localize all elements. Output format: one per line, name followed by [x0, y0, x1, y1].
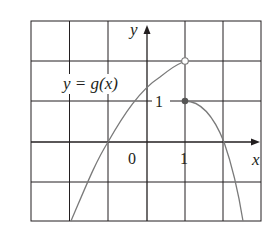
x-axis-arrow-icon [251, 139, 260, 146]
x-tick-label-1: 1 [180, 150, 188, 167]
y-axis-label: y [128, 20, 138, 39]
axes [31, 30, 254, 221]
origin-label: 0 [128, 150, 136, 167]
function-label: y = g(x) [61, 74, 118, 93]
graph: y x 0 1 1 y = g(x) [0, 0, 277, 236]
curve-right-branch [185, 101, 243, 221]
y-tick-label-1: 1 [155, 93, 163, 110]
open-circle-marker [182, 58, 189, 65]
filled-dot-marker [182, 98, 189, 105]
x-axis-label: x [251, 150, 260, 169]
grid [31, 21, 261, 221]
y-axis-arrow-icon [144, 25, 151, 34]
